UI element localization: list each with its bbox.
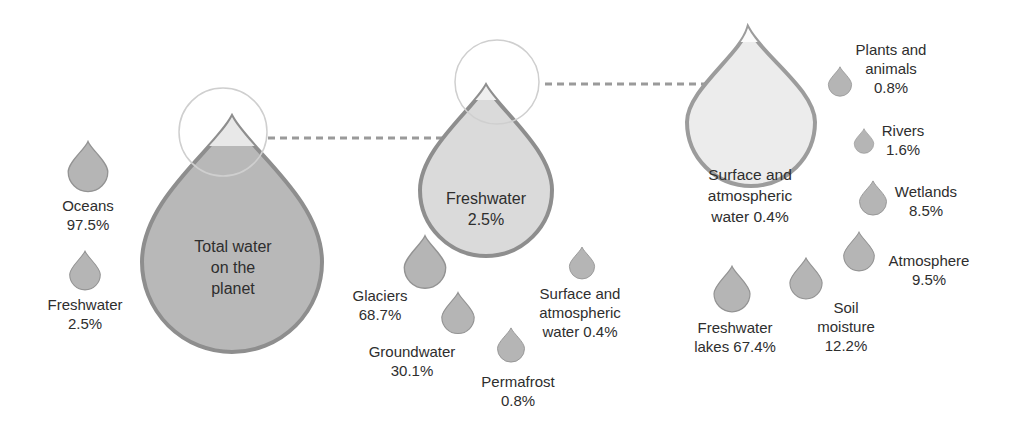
groundwater-label: Groundwater 30.1% bbox=[362, 342, 462, 380]
glaciers-drop-icon bbox=[404, 236, 445, 288]
surface-atmospheric-small-label: Surface and atmospheric water 0.4% bbox=[524, 284, 636, 341]
surface-small-drop-icon bbox=[569, 247, 594, 279]
groundwater-drop-icon bbox=[442, 292, 474, 333]
wetlands-drop-icon bbox=[860, 181, 887, 215]
total-water-label: Total water on the planet bbox=[186, 236, 280, 299]
wetlands-label: Wetlands 8.5% bbox=[888, 182, 964, 220]
permafrost-drop-icon bbox=[498, 328, 525, 362]
rivers-drop-icon bbox=[854, 129, 874, 154]
freshwater-main-label: Freshwater 2.5% bbox=[436, 188, 536, 230]
atmosphere-label: Atmosphere 9.5% bbox=[874, 251, 984, 289]
freshwater-label: Freshwater 2.5% bbox=[30, 295, 140, 333]
surface-atmospheric-drop bbox=[680, 20, 820, 186]
freshwater-lakes-drop-icon bbox=[714, 266, 750, 312]
oceans-label: Oceans 97.5% bbox=[40, 196, 136, 234]
freshwater-lakes-label: Freshwater lakes 67.4% bbox=[680, 318, 790, 356]
glaciers-label: Glaciers 68.7% bbox=[340, 286, 420, 324]
oceans-drop-icon bbox=[68, 141, 108, 191]
atmosphere-drop-icon bbox=[844, 232, 875, 271]
rivers-label: Rivers 1.6% bbox=[876, 121, 930, 159]
total-water-drop bbox=[140, 100, 330, 352]
soil-moisture-drop-icon bbox=[790, 258, 822, 299]
soil-moisture-label: Soil moisture 12.2% bbox=[804, 298, 888, 355]
plants-animals-label: Plants and animals 0.8% bbox=[848, 40, 934, 97]
freshwater-small-drop-icon bbox=[70, 251, 101, 290]
permafrost-label: Permafrost 0.8% bbox=[470, 372, 566, 410]
surface-atmospheric-main-label: Surface and atmospheric water 0.4% bbox=[694, 164, 806, 227]
